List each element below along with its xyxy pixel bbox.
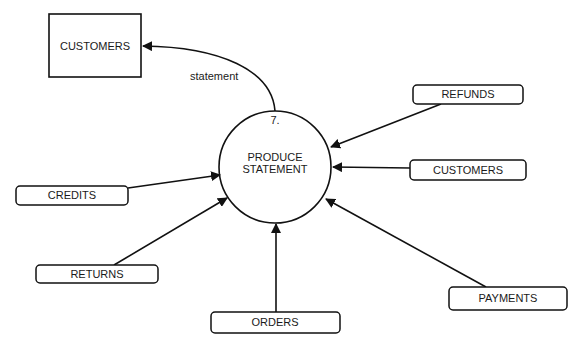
data-store-label: REFUNDS [441,88,494,100]
flow-refunds [331,104,441,147]
data-store-label: ORDERS [251,316,298,328]
data-store-label: CREDITS [48,189,96,201]
flow-label-statement: statement [190,70,238,82]
data-store-payments: PAYMENTS [449,287,567,310]
flow-credits [128,175,220,188]
flow-payments [326,199,486,287]
process-label-line1: PRODUCE [247,151,302,163]
data-store-customers: CUSTOMERS [410,160,526,180]
data-store-label: CUSTOMERS [433,164,503,176]
data-flow-diagram: CUSTOMERS statement 7. PRODUCE STATEMENT… [0,0,580,347]
flow-statement: statement [143,46,275,111]
data-store-returns: RETURNS [36,265,158,283]
data-store-credits: CREDITS [16,186,128,205]
data-store-label: PAYMENTS [479,292,538,304]
flow-customers [333,167,410,168]
process-number: 7. [270,114,279,126]
process-produce-statement: 7. PRODUCE STATEMENT [219,111,331,223]
process-label-line2: STATEMENT [243,163,308,175]
data-store-label: RETURNS [70,268,123,280]
external-entity-customers: CUSTOMERS [49,14,141,77]
data-store-orders: ORDERS [211,312,340,333]
external-entity-label: CUSTOMERS [60,40,130,52]
data-store-refunds: REFUNDS [413,85,523,104]
flow-returns [114,198,227,265]
